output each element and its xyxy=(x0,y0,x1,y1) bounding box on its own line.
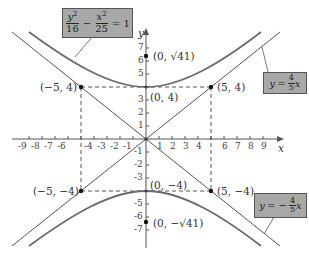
rhs-var: x xyxy=(295,78,301,89)
x-tick-label: 9 xyxy=(261,142,267,151)
y-tick-label: 3 xyxy=(138,95,144,104)
x-tick-label: 3 xyxy=(183,142,189,151)
point-focus-bottom xyxy=(144,220,148,224)
label-corner-lr: (5, −4) xyxy=(217,186,254,197)
exponent: 2 xyxy=(102,10,106,18)
y-tick-label: 5 xyxy=(138,69,144,78)
fraction-4-5: 4 5 xyxy=(288,74,295,92)
point-corner-lr xyxy=(209,189,213,193)
label-corner-ur: (5, 4) xyxy=(217,82,245,93)
x-tick-label: -3 xyxy=(97,142,106,151)
x-tick-label: -8 xyxy=(31,142,40,151)
x-tick-label: 8 xyxy=(248,142,254,151)
y-tick-label: 6 xyxy=(138,56,144,65)
equation-box: y2 16 − x2 25 = 1 xyxy=(62,8,133,38)
y-axis-label: y xyxy=(138,28,144,39)
label-vertex-bottom: (0, −4) xyxy=(150,180,187,191)
x-tick-label: 1 xyxy=(157,142,163,151)
y-tick-label: 7 xyxy=(138,43,144,52)
x-tick-label: -1 xyxy=(123,142,132,151)
y-tick-label: -5 xyxy=(134,199,143,208)
denominator: 16 xyxy=(65,24,80,35)
x-tick-label: -7 xyxy=(44,142,53,151)
point-corner-ur xyxy=(209,85,213,89)
hyperbola-upper-branch xyxy=(29,32,261,87)
label-corner-ul: (−5, 4) xyxy=(40,82,77,93)
equals-one: = 1 xyxy=(112,18,130,29)
point-corner-ll xyxy=(79,189,83,193)
fraction-x2-25: x2 25 xyxy=(94,11,109,34)
y-tick-label: -7 xyxy=(134,225,143,234)
x-axis-label: x xyxy=(278,143,284,154)
y-tick-label: 1 xyxy=(138,121,144,130)
fraction-y2-16: y2 16 xyxy=(65,11,80,34)
denominator: 5 xyxy=(288,84,295,92)
label-corner-ll: (−5, −4) xyxy=(33,186,79,197)
point-origin xyxy=(144,137,147,140)
x-tick-label: 6 xyxy=(222,142,228,151)
lhs-var: y xyxy=(259,200,265,211)
point-corner-ul xyxy=(79,85,83,89)
asymptote-negative-box: y = − 4 5 x xyxy=(254,193,307,218)
x-tick-label: 2 xyxy=(170,142,176,151)
point-vertex-top xyxy=(144,85,147,88)
y-tick-label: -1 xyxy=(134,147,143,156)
exponent: 2 xyxy=(73,10,77,18)
x-tick-label: 7 xyxy=(235,142,241,151)
x-tick-label: -2 xyxy=(110,142,119,151)
hyperbola-lower-branch xyxy=(29,191,261,246)
y-tick-label: -3 xyxy=(134,173,143,182)
y-tick-label: -2 xyxy=(134,160,143,169)
label-vertex-top: (0, 4) xyxy=(150,92,178,103)
label-focus-top: (0, √41) xyxy=(153,51,195,62)
denominator: 5 xyxy=(289,206,296,214)
x-tick-label: 4 xyxy=(196,142,202,151)
y-tick-label: 2 xyxy=(138,108,144,117)
equals-minus-sign: = − xyxy=(267,200,287,211)
equals-sign: = xyxy=(277,78,285,89)
minus-sign: − xyxy=(83,18,91,29)
leader-lines xyxy=(75,36,274,234)
point-vertex-bottom xyxy=(144,189,147,192)
lhs-var: y xyxy=(270,78,276,89)
point-focus-top xyxy=(144,54,148,58)
x-tick-label: -9 xyxy=(18,142,27,151)
x-tick-label: -6 xyxy=(57,142,66,151)
denominator: 25 xyxy=(94,24,109,35)
y-tick-label: -6 xyxy=(134,212,143,221)
x-tick-label: -4 xyxy=(84,142,93,151)
asymptote-positive-box: y = 4 5 x xyxy=(263,72,307,94)
hyperbola-diagram: y x -9 -8 -7 -6 -4 -3 -2 -1 1 2 3 4 6 7 … xyxy=(0,0,309,257)
fraction-4-5: 4 5 xyxy=(289,197,296,215)
label-focus-bottom: (0, −√41) xyxy=(153,218,203,229)
rhs-var: x xyxy=(296,200,302,211)
